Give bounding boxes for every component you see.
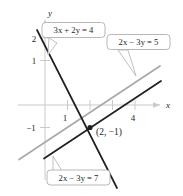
x-tick-label-4: 4: [131, 113, 136, 123]
x-tick-label-1: 1: [63, 113, 68, 123]
callout-2x-3y-5-text: 2x − 3y = 5: [119, 37, 159, 47]
graph-figure: 1 4 2 1 −1 x y (2, −1) 3x + 2y = 4 2x − …: [0, 0, 183, 196]
y-tick-label-minus-1: −1: [26, 123, 36, 133]
intersection-point-marker: [87, 125, 92, 130]
y-tick-label-2: 2: [32, 34, 37, 44]
x-axis-label: x: [165, 100, 170, 110]
callout-3x-2y-4-text: 3x + 2y = 4: [54, 25, 94, 35]
y-axis-label: y: [47, 8, 52, 18]
intersection-point-label: (2, −1): [96, 127, 122, 138]
y-tick-label-1: 1: [32, 56, 37, 66]
callout-2x-3y-7-text: 2x − 3y = 7: [59, 173, 99, 183]
